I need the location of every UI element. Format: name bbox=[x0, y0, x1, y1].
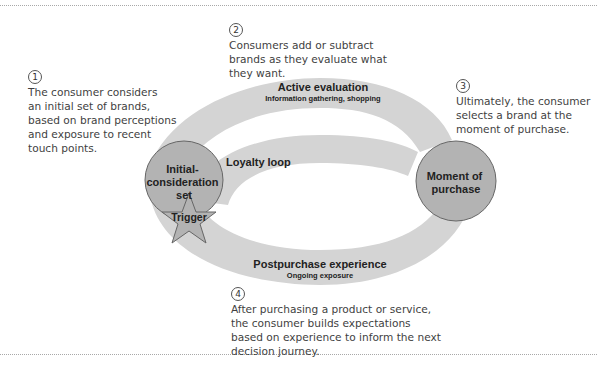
loyalty-loop-label: Loyalty loop bbox=[226, 156, 291, 168]
step-number-1: 1 bbox=[28, 70, 42, 84]
callout-text-3: Ultimately, the consumer selects a brand… bbox=[456, 94, 596, 136]
active-evaluation-subtitle: Information gathering, shopping bbox=[265, 94, 381, 103]
trigger-label: Trigger bbox=[171, 211, 207, 223]
callout-step-1: 1 The consumer considers an initial set … bbox=[28, 69, 198, 155]
callout-text-2: Consumers add or subtract brands as they… bbox=[229, 38, 399, 80]
moment-label-2: purchase bbox=[432, 183, 481, 195]
initial-set-label-3: set bbox=[176, 189, 192, 201]
initial-set-label-2: consideration bbox=[146, 176, 218, 188]
loyalty-loop-band bbox=[190, 135, 418, 205]
postpurchase-title: Postpurchase experience bbox=[253, 258, 386, 270]
active-evaluation-title: Active evaluation bbox=[278, 81, 369, 93]
svg-text:Moment of purchase: Moment of purchase bbox=[427, 170, 486, 195]
step-number-3: 3 bbox=[456, 79, 470, 93]
callout-step-3: 3 Ultimately, the consumer selects a bra… bbox=[456, 78, 596, 136]
moment-label-1: Moment of bbox=[427, 170, 483, 182]
callout-text-1: The consumer considers an initial set of… bbox=[28, 85, 198, 155]
step-number-2: 2 bbox=[229, 23, 243, 37]
step-number-4: 4 bbox=[231, 287, 245, 301]
callout-step-2: 2 Consumers add or subtract brands as th… bbox=[229, 22, 399, 80]
initial-set-label-1: Initial- bbox=[166, 163, 199, 175]
callout-step-4: 4 After purchasing a product or service,… bbox=[231, 286, 441, 358]
callout-text-4: After purchasing a product or service, t… bbox=[231, 302, 441, 358]
postpurchase-subtitle: Ongoing exposure bbox=[287, 271, 353, 280]
